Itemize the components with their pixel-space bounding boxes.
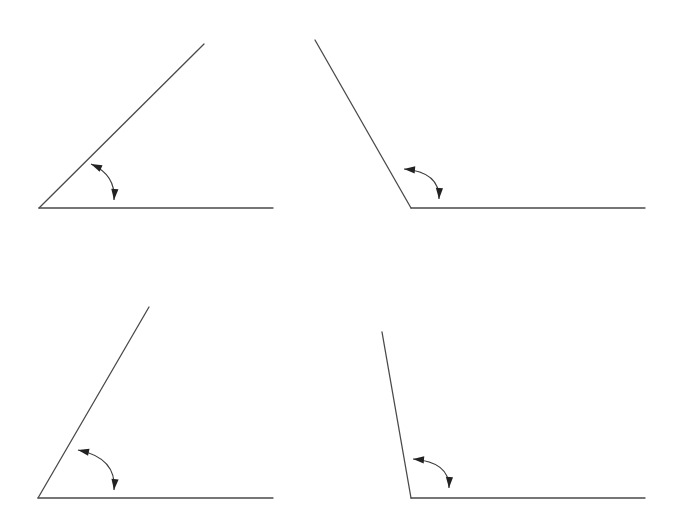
- angle-2-arrowhead-start-icon: [404, 166, 415, 173]
- angle-1-group: [39, 44, 273, 208]
- angle-1-arrowhead-end-icon: [111, 189, 118, 200]
- angle-4-arrowhead-end-icon: [446, 477, 453, 488]
- angle-3-ray: [38, 307, 149, 498]
- angle-4-ray: [382, 332, 411, 498]
- angle-2-double-arrow-icon: [404, 169, 439, 199]
- angle-4-group: [382, 332, 645, 498]
- angle-3-double-arrow-icon: [78, 450, 114, 490]
- angle-1-double-arrow-icon: [91, 164, 114, 200]
- angle-3-arrowhead-end-icon: [111, 479, 118, 490]
- angle-2-arrowhead-end-icon: [436, 188, 443, 199]
- angles-diagram: [0, 0, 684, 527]
- angle-4-double-arrow-icon: [413, 459, 449, 488]
- angle-2-ray: [315, 40, 411, 208]
- angle-3-group: [38, 307, 273, 498]
- angle-1-arrowhead-start-icon: [91, 164, 103, 172]
- angle-4-arrowhead-start-icon: [413, 456, 424, 463]
- angle-3-arrowhead-start-icon: [78, 449, 89, 456]
- angle-2-group: [315, 40, 645, 208]
- angle-1-ray: [39, 44, 204, 208]
